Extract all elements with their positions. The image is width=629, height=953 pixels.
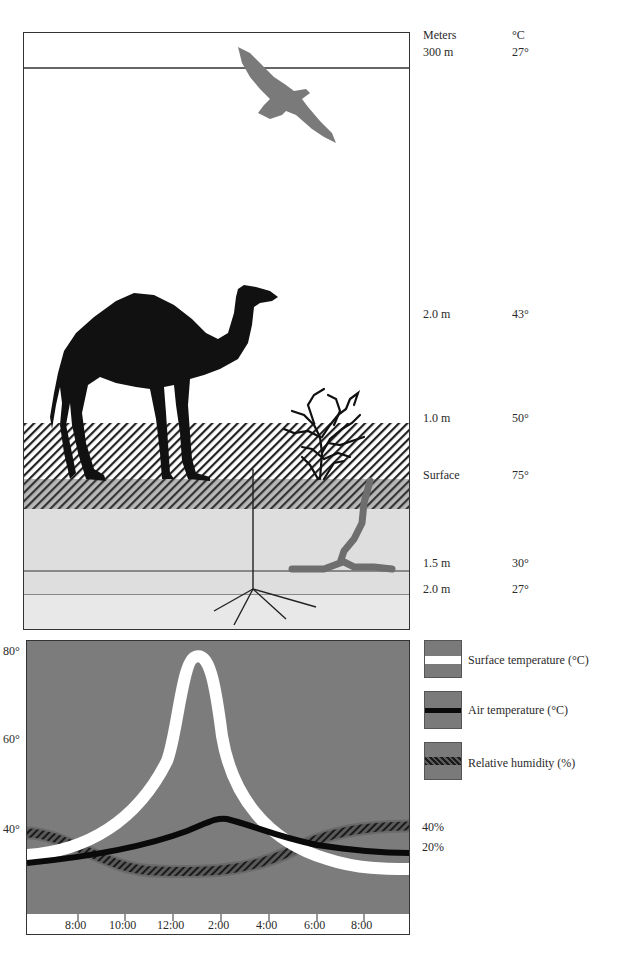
x-tick-2pm: 2:00 <box>208 918 229 933</box>
level-temp-2m-above: 43° <box>512 307 529 322</box>
y-tick-40: 40° <box>3 822 20 837</box>
legend-label-air-temp: Air temperature (°C) <box>468 703 568 718</box>
y2-tick-40pct: 40% <box>422 820 444 835</box>
level-height-1m: 1.0 m <box>423 411 450 426</box>
y-tick-80: 80° <box>3 644 20 659</box>
level-height-surface: Surface <box>423 468 460 483</box>
level-height-300m: 300 m <box>423 45 453 60</box>
x-tick-8am: 8:00 <box>65 918 86 933</box>
chart-plot <box>27 641 410 935</box>
legend-label-surface-temp: Surface temperature (°C) <box>468 653 589 668</box>
level-temp-300m: 27° <box>512 45 529 60</box>
temp-column-header: °C <box>512 28 525 43</box>
level-height-2m-below: 2.0 m <box>423 582 450 597</box>
y-tick-60: 60° <box>3 732 20 747</box>
x-tick-12pm: 12:00 <box>157 918 184 933</box>
x-tick-8pm: 8:00 <box>351 918 372 933</box>
legend-swatch-humidity <box>424 742 462 780</box>
height-column-header: Meters <box>423 28 456 43</box>
scene-graphic <box>24 33 410 630</box>
level-temp-1m: 50° <box>512 411 529 426</box>
x-tick-10am: 10:00 <box>109 918 136 933</box>
x-tick-6pm: 6:00 <box>304 918 325 933</box>
level-height-2m-above: 2.0 m <box>423 307 450 322</box>
y2-tick-20pct: 20% <box>422 840 444 855</box>
habitat-cross-section <box>23 32 410 630</box>
legend-label-humidity: Relative humidity (%) <box>468 756 575 771</box>
temperature-humidity-chart: 8:00 10:00 12:00 2:00 4:00 6:00 8:00 <box>26 640 410 935</box>
legend-swatch-air-temp <box>424 691 462 729</box>
level-temp-surface: 75° <box>512 468 529 483</box>
legend-swatch-surface-temp <box>424 640 462 678</box>
level-temp-2m-below: 27° <box>512 582 529 597</box>
bird-icon <box>238 47 336 143</box>
level-temp-1-5m-below: 30° <box>512 556 529 571</box>
x-tick-4pm: 4:00 <box>256 918 277 933</box>
surface-layer <box>24 479 410 509</box>
level-height-1-5m-below: 1.5 m <box>423 556 450 571</box>
